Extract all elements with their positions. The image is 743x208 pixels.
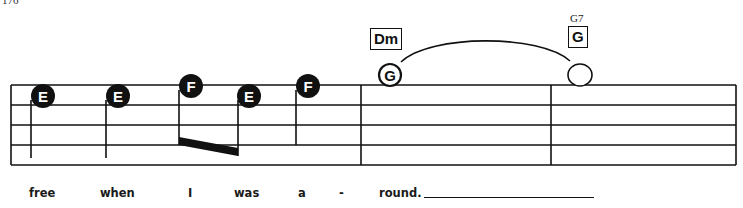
svg-text:F: F	[303, 78, 312, 95]
svg-text:F: F	[186, 78, 195, 95]
note-G-whole: G	[379, 64, 401, 86]
chord-g7-label: G7	[570, 12, 583, 24]
note-F-2: F	[296, 74, 320, 98]
svg-text:G: G	[384, 67, 396, 84]
chord-dm: Dm	[370, 28, 402, 50]
lyric-word: was	[234, 186, 259, 200]
svg-text:E: E	[244, 88, 254, 105]
svg-text:E: E	[38, 88, 48, 105]
lyric-word: round.	[379, 186, 422, 200]
tie-arc	[401, 41, 570, 62]
note-E-2: E	[106, 84, 130, 108]
lyric-word: free	[29, 186, 55, 200]
chord-g: G	[568, 26, 588, 48]
lyric-extender-line	[424, 197, 594, 198]
lyric-word: when	[100, 186, 135, 200]
lyric-hyphen: -	[339, 186, 344, 200]
eighth-note-beam	[179, 137, 238, 156]
note-E-3: E	[237, 84, 261, 108]
whole-note-open	[568, 64, 592, 86]
note-F-1: F	[179, 74, 203, 98]
svg-text:E: E	[113, 88, 123, 105]
lyric-word: I	[188, 186, 192, 200]
lyric-word: a	[298, 186, 306, 200]
note-E-1: E	[31, 84, 55, 108]
